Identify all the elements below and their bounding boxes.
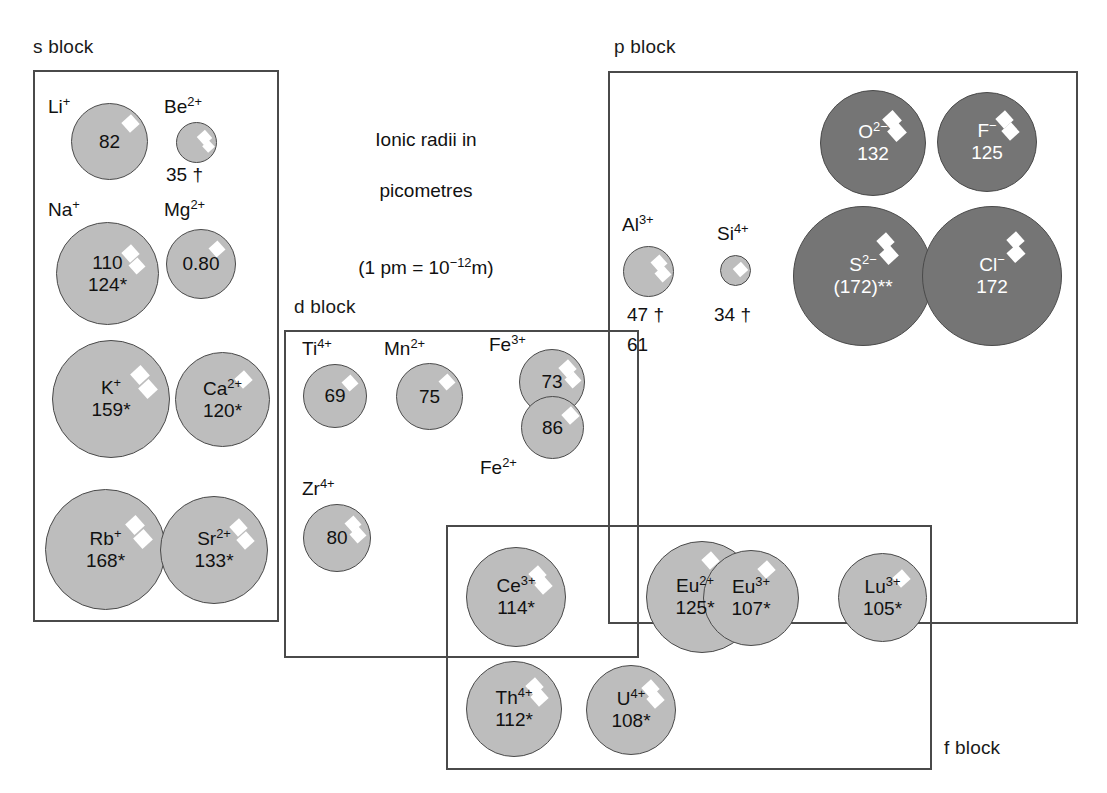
ion-label-fe2: Fe2+ — [480, 456, 517, 479]
ion-value-f: 125 — [971, 142, 1003, 164]
ion-value-mg: 0.80 — [183, 253, 220, 275]
ion-value-fe3: 73 — [541, 371, 562, 393]
highlight-icon — [655, 266, 672, 283]
ion-sphere-ce[interactable]: Ce3+ 114* — [466, 547, 566, 647]
ion-label-ti: Ti4+ — [302, 337, 332, 360]
ion-value-ti: 69 — [324, 385, 345, 407]
highlight-icon — [197, 130, 213, 146]
ion-label-li-charge: + — [63, 94, 71, 109]
highlight-icon — [534, 576, 552, 594]
ion-value-o: 132 — [857, 143, 889, 165]
ion-symbol-lu: Lu3+ — [865, 576, 901, 598]
highlight-icon — [202, 140, 215, 153]
ion-value-sr: 133* — [194, 550, 233, 572]
ion-value-na-primary: 110 — [92, 252, 122, 274]
highlight-icon — [646, 690, 664, 708]
highlight-icon — [1006, 231, 1024, 249]
ion-value-u: 108* — [611, 710, 650, 732]
caption-line-3: (1 pm = 10−12m) — [318, 229, 534, 280]
ion-symbol-rb: Rb+ — [90, 528, 122, 550]
ion-value-lu: 105* — [863, 598, 902, 620]
ion-value-fe2: 86 — [542, 417, 563, 439]
s-block-label: s block — [33, 36, 94, 58]
ion-label-fe3-symbol: Fe — [489, 334, 511, 355]
ion-sphere-ca[interactable]: Ca2+ 120* — [175, 352, 270, 447]
ion-value-th: 112* — [495, 709, 533, 731]
ion-symbol-ca: Ca2+ — [203, 378, 242, 400]
ion-symbol-s: S2− — [849, 254, 876, 276]
d-block-label: d block — [294, 296, 356, 318]
ion-sphere-lu[interactable]: Lu3+ 105* — [838, 553, 927, 642]
highlight-icon — [129, 258, 146, 275]
highlight-icon — [125, 515, 145, 535]
highlight-icon — [121, 114, 139, 132]
ion-sphere-mg[interactable]: 0.80 — [166, 229, 236, 299]
ion-sphere-rb[interactable]: Rb+ 168* — [45, 489, 166, 610]
ion-sphere-u[interactable]: U4+ 108* — [586, 665, 676, 755]
ion-sphere-s[interactable]: S2− (172)** — [793, 206, 933, 346]
highlight-icon — [229, 518, 247, 536]
caption-line-1: Ionic radii in — [318, 127, 534, 152]
highlight-icon — [530, 688, 548, 706]
highlight-icon — [887, 122, 907, 142]
caption-line-2: picometres — [318, 178, 534, 203]
ion-symbol-u: U4+ — [617, 688, 645, 710]
ion-sphere-si[interactable] — [720, 255, 751, 286]
ion-sphere-fe2[interactable]: 86 — [521, 396, 584, 459]
ion-label-mn-charge: 2+ — [410, 336, 425, 351]
ion-sphere-eu3[interactable]: Eu3+ 107* — [703, 550, 799, 646]
ion-sphere-th[interactable]: Th4+ 112* — [466, 661, 562, 757]
ion-label-zr: Zr4+ — [302, 477, 335, 500]
highlight-icon — [1006, 244, 1025, 263]
ion-value-rb: 168* — [86, 550, 125, 572]
ion-symbol-th: Th4+ — [496, 687, 533, 709]
ion-value-al-primary: 47 † — [627, 303, 664, 326]
ionic-radii-diagram: s block Li+ 82 Be2+ 35 † Na+ 110 124* Mg… — [0, 0, 1107, 793]
highlight-icon — [876, 232, 894, 250]
ion-symbol-eu2: Eu2+ — [676, 575, 714, 597]
ion-sphere-ti[interactable]: 69 — [303, 364, 367, 428]
ion-sphere-be[interactable] — [176, 122, 217, 163]
ion-label-li-symbol: Li — [48, 96, 63, 117]
highlight-icon — [236, 531, 254, 549]
ion-value-si: 34 † — [714, 303, 751, 326]
p-block-label: p block — [614, 36, 676, 58]
ion-symbol-k: K+ — [101, 377, 121, 399]
ion-value-li: 82 — [99, 131, 120, 153]
ion-symbol-cl: Cl− — [979, 254, 1005, 276]
highlight-icon — [733, 262, 749, 278]
ion-value-ca: 120* — [203, 400, 242, 422]
ion-value-mn: 75 — [419, 386, 440, 408]
ion-sphere-na[interactable]: 110 124* — [56, 222, 159, 325]
ion-label-mn-symbol: Mn — [384, 338, 410, 359]
highlight-icon — [879, 245, 899, 265]
ion-sphere-cl[interactable]: Cl− 172 — [922, 206, 1062, 346]
ion-value-al-alt: 61 — [627, 333, 648, 356]
ion-sphere-li[interactable]: 82 — [71, 103, 148, 180]
ion-symbol-eu3: Eu3+ — [732, 576, 770, 598]
ion-sphere-k[interactable]: K+ 159* — [52, 340, 170, 458]
ion-label-mn: Mn2+ — [384, 337, 425, 360]
ion-sphere-zr[interactable]: 80 — [303, 504, 371, 572]
ion-label-si-charge: 4+ — [734, 221, 749, 236]
f-block-label: f block — [944, 737, 1000, 759]
highlight-icon — [651, 255, 668, 272]
ion-label-be-charge: 2+ — [187, 94, 202, 109]
ion-sphere-f[interactable]: F− 125 — [937, 92, 1037, 192]
ion-sphere-o[interactable]: O2− 132 — [820, 90, 926, 196]
ion-label-na: Na+ — [48, 198, 80, 221]
highlight-icon — [1001, 122, 1019, 140]
highlight-icon — [561, 406, 579, 424]
ion-sphere-al[interactable] — [623, 246, 674, 297]
highlight-icon — [133, 529, 153, 549]
ion-symbol-o: O2− — [858, 121, 888, 143]
ion-sphere-sr[interactable]: Sr2+ 133* — [160, 496, 268, 604]
ion-sphere-mn[interactable]: 75 — [396, 363, 463, 430]
highlight-icon — [995, 110, 1013, 128]
highlight-icon — [439, 374, 456, 391]
ion-symbol-f: F− — [977, 120, 996, 142]
highlight-icon — [121, 244, 139, 262]
ion-value-eu2: 125* — [675, 597, 714, 619]
ion-value-eu3: 107* — [731, 598, 770, 620]
ion-value-cl: 172 — [976, 276, 1008, 298]
